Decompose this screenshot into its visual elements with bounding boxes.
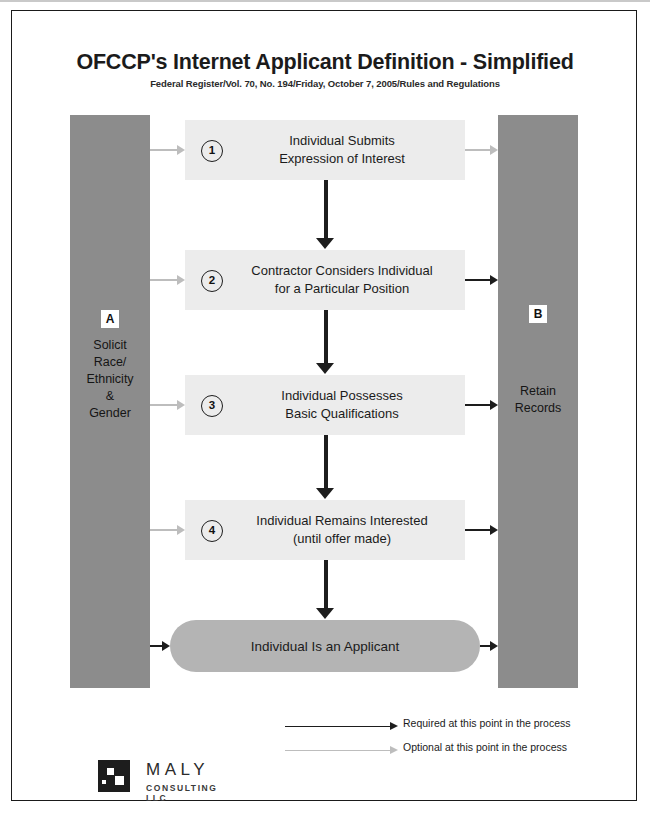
page-top-rule xyxy=(0,0,650,2)
mark-square-2 xyxy=(115,776,124,785)
connector-step1-to-b xyxy=(465,149,490,151)
legend-arrowhead-optional-icon xyxy=(390,746,398,754)
column-badge-a: A xyxy=(101,310,119,328)
column-solicit-demographics: A SolicitRace/Ethnicity&Gender xyxy=(70,115,150,688)
arrowhead-step2-b-icon xyxy=(490,275,498,285)
legend-label-optional: Optional at this point in the process xyxy=(403,741,567,753)
arrowhead-a-final-icon xyxy=(162,641,170,651)
connector-final-to-b xyxy=(480,645,490,647)
arrowhead-a-step3-icon xyxy=(177,400,185,410)
page-subtitle: Federal Register/Vol. 70, No. 194/Friday… xyxy=(0,78,650,89)
connector-step1-to-step2 xyxy=(324,180,328,238)
connector-step2-to-b xyxy=(465,279,490,281)
connector-a-to-step4 xyxy=(150,529,177,531)
arrowhead-step3-icon xyxy=(316,363,334,374)
diagram-page: OFCCP's Internet Applicant Definition - … xyxy=(0,0,650,813)
logo-company-tagline: CONSULTING LLC xyxy=(146,783,218,803)
arrowhead-step4-icon xyxy=(316,488,334,499)
arrowhead-step1-b-icon xyxy=(490,145,498,155)
final-outcome-box: Individual Is an Applicant xyxy=(170,620,480,672)
legend-item-optional: Optional at this point in the process xyxy=(285,742,605,759)
step-label-4: Individual Remains Interested(until offe… xyxy=(229,512,455,548)
process-step-3: 3 Individual PossessesBasic Qualificatio… xyxy=(185,375,465,435)
legend-arrowhead-required-icon xyxy=(390,722,398,730)
legend-line-optional xyxy=(285,750,390,751)
column-a-label: SolicitRace/Ethnicity&Gender xyxy=(70,337,150,422)
connector-a-to-step3 xyxy=(150,404,177,406)
arrowhead-a-step2-icon xyxy=(177,275,185,285)
connector-step3-to-step4 xyxy=(324,435,328,488)
final-outcome-label: Individual Is an Applicant xyxy=(170,639,480,654)
step-number-4: 4 xyxy=(201,520,223,542)
logo-text: MALY CONSULTING LLC xyxy=(146,760,218,803)
step-number-2: 2 xyxy=(201,270,223,292)
legend-item-required: Required at this point in the process xyxy=(285,718,605,735)
step-number-3: 3 xyxy=(201,395,223,417)
arrowhead-final-b-icon xyxy=(490,641,498,651)
step-label-1: Individual SubmitsExpression of Interest xyxy=(229,132,455,168)
process-step-1: 1 Individual SubmitsExpression of Intere… xyxy=(185,120,465,180)
connector-a-to-step2 xyxy=(150,279,177,281)
process-step-2: 2 Contractor Considers Individualfor a P… xyxy=(185,250,465,310)
column-badge-b: B xyxy=(529,305,547,323)
mark-square-3 xyxy=(102,780,106,784)
logo-company-name: MALY xyxy=(146,760,218,780)
connector-step2-to-step3 xyxy=(324,310,328,363)
step-label-2: Contractor Considers Individualfor a Par… xyxy=(229,262,455,298)
maly-square-mark-icon xyxy=(98,760,130,792)
page-title: OFCCP's Internet Applicant Definition - … xyxy=(0,50,650,75)
arrowhead-step2-icon xyxy=(316,238,334,249)
arrowhead-step3-b-icon xyxy=(490,400,498,410)
step-label-3: Individual PossessesBasic Qualifications xyxy=(229,387,455,423)
legend: Required at this point in the process Op… xyxy=(285,718,605,759)
connector-step3-to-b xyxy=(465,404,490,406)
arrowhead-a-step4-icon xyxy=(177,525,185,535)
connector-a-to-final xyxy=(150,645,162,647)
arrowhead-step4-b-icon xyxy=(490,525,498,535)
legend-label-required: Required at this point in the process xyxy=(403,717,571,729)
legend-line-required xyxy=(285,726,390,727)
mark-square-1 xyxy=(107,768,114,775)
column-b-label: RetainRecords xyxy=(498,383,578,417)
step-number-1: 1 xyxy=(201,140,223,162)
arrowhead-a-step1-icon xyxy=(177,145,185,155)
column-retain-records: B RetainRecords xyxy=(498,115,578,688)
process-step-4: 4 Individual Remains Interested(until of… xyxy=(185,500,465,560)
connector-step4-to-final xyxy=(324,560,328,608)
connector-a-to-step1 xyxy=(150,149,177,151)
connector-step4-to-b xyxy=(465,529,490,531)
arrowhead-final-icon xyxy=(316,608,334,619)
